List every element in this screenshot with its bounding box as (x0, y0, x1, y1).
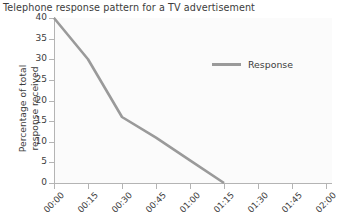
y-tick-30 (49, 59, 54, 60)
x-tick-01-30 (258, 184, 259, 189)
x-tick-00-15 (88, 184, 89, 189)
y-axis-title: Percentage of total response received (17, 34, 40, 184)
x-tick-00-45 (156, 184, 157, 189)
x-tick-00-00 (54, 184, 55, 189)
y-tick-20 (49, 101, 54, 102)
y-tick-15 (49, 121, 54, 122)
plot-area (54, 18, 332, 183)
x-tick-01-00 (190, 184, 191, 189)
y-axis-line (54, 17, 55, 184)
y-tick-35 (49, 39, 54, 40)
y-tick-25 (49, 80, 54, 81)
y-axis-title-line-2: response received (28, 34, 40, 184)
x-tick-01-15 (224, 184, 225, 189)
x-tick-02-00 (326, 184, 327, 189)
y-axis-title-line-1: Percentage of total (17, 34, 29, 184)
legend-swatch-response (212, 63, 241, 66)
x-tick-01-45 (292, 184, 293, 189)
x-axis-line (54, 183, 332, 184)
y-tick-40 (49, 18, 54, 19)
y-tick-label-40: 40 (26, 12, 47, 22)
legend-label-response: Response (248, 59, 293, 70)
y-tick-5 (49, 162, 54, 163)
x-tick-00-30 (122, 184, 123, 189)
chart-legend: Response (212, 59, 293, 70)
y-tick-10 (49, 142, 54, 143)
